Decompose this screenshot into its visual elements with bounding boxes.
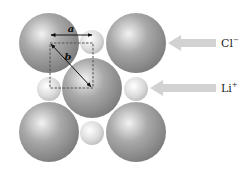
cl-symbol: Cl [221, 37, 233, 50]
dimension-a-label: a [68, 23, 74, 34]
li-symbol: Li [221, 82, 232, 95]
cl-ion-label: Cl− [221, 36, 239, 50]
li-pointer-arrow [150, 80, 216, 96]
cl-ion-sphere-top-right [106, 13, 166, 73]
dimension-b-label: b [65, 51, 72, 62]
cl-pointer-arrow [168, 35, 216, 51]
cl-charge: − [233, 36, 239, 44]
li-ion-sphere-right [124, 77, 148, 101]
li-ion-sphere-left [37, 77, 61, 101]
li-ion-sphere-top [80, 30, 104, 54]
li-charge: + [232, 81, 238, 89]
li-ion-label: Li+ [221, 81, 238, 95]
li-ion-sphere-bottom [80, 121, 104, 145]
licl-lattice-diagram: a b Cl− Li+ [0, 0, 252, 176]
cl-ion-sphere-bottom-right [106, 102, 166, 162]
cl-ion-sphere-bottom-left [19, 102, 79, 162]
